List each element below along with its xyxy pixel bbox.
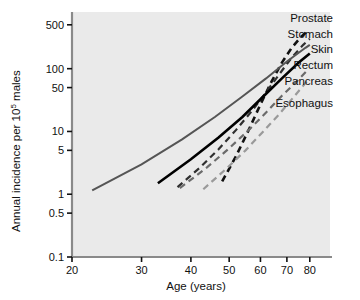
- chart-container: 0.10.5151050100500 20304050607080 Prosta…: [0, 0, 360, 300]
- x-axis-tick-label: 60: [254, 264, 266, 276]
- x-axis-tick-label: 80: [304, 264, 316, 276]
- x-axis-tick-label: 20: [66, 264, 78, 276]
- y-axis-title-group: Annual incidence per 105 males: [9, 70, 22, 232]
- series-label-prostate: Prostate: [290, 12, 333, 24]
- x-axis-tick-label: 70: [281, 264, 293, 276]
- y-axis-tick-label: 100: [46, 63, 64, 75]
- y-axis-tick-label: 10: [52, 125, 64, 137]
- incidence-vs-age-log-log-chart: 0.10.5151050100500 20304050607080 Prosta…: [0, 0, 360, 300]
- y-axis-title: Annual incidence per 105 males: [9, 70, 22, 232]
- x-axis-tick-label: 40: [185, 264, 197, 276]
- y-axis-tick-label: 0.1: [49, 251, 64, 263]
- x-axis-tick-label: 30: [135, 264, 147, 276]
- x-axis-tick-label: 50: [223, 264, 235, 276]
- plot-area-background: [72, 12, 330, 257]
- x-axis-title: Age (years): [166, 280, 226, 292]
- series-label-stomach: Stomach: [288, 28, 333, 40]
- y-axis-tick-label: 500: [46, 19, 64, 31]
- y-axis-tick-label: 0.5: [49, 207, 64, 219]
- series-label-skin: Skin: [311, 43, 333, 55]
- y-axis-tick-labels: 0.10.5151050100500: [46, 19, 64, 263]
- y-axis-tick-label: 1: [58, 188, 64, 200]
- series-label-esophagus: Esophagus: [275, 97, 333, 109]
- x-axis-tick-labels: 20304050607080: [66, 264, 316, 276]
- y-axis-tick-label: 5: [58, 144, 64, 156]
- series-label-pancreas: Pancreas: [284, 75, 333, 87]
- series-label-rectum: Rectum: [293, 59, 333, 71]
- y-axis-tick-label: 50: [52, 82, 64, 94]
